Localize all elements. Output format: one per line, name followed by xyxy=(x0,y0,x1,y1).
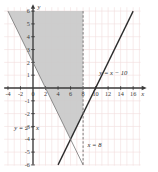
graph-figure: -4-20246810121416654321-1-2-3-4-5-6xyy =… xyxy=(0,0,158,172)
x-axis-tick-label: 16 xyxy=(130,90,136,97)
coordinate-plane-svg: -4-20246810121416654321-1-2-3-4-5-6xyy =… xyxy=(0,0,158,172)
y-axis-tick-label: -6 xyxy=(25,161,30,168)
x-axis-name: x xyxy=(140,90,144,97)
x-axis-tick-label: 0 xyxy=(31,90,34,97)
y-axis-tick-label: 4 xyxy=(27,33,30,40)
y-axis-tick-label: -1 xyxy=(25,97,30,104)
equation-label: x = 8 xyxy=(86,141,102,148)
equation-label: y = x − 10 xyxy=(98,69,128,76)
x-axis-tick-label: 6 xyxy=(69,90,72,97)
y-axis-tick-label: 1 xyxy=(27,71,30,78)
y-axis-tick-label: 2 xyxy=(27,59,30,66)
y-axis-name: y xyxy=(37,3,41,10)
y-axis-tick-label: 6 xyxy=(27,7,30,14)
y-axis-tick-label: 3 xyxy=(27,46,30,53)
x-axis-tick-label: -2 xyxy=(18,90,23,97)
x-axis-tick-label: 14 xyxy=(118,90,124,97)
x-axis-tick-label: 4 xyxy=(56,90,59,97)
y-axis-tick-label: -2 xyxy=(25,110,30,117)
equation-label: y = 2 − x xyxy=(13,124,39,131)
x-axis-tick-label: -4 xyxy=(5,90,10,97)
y-axis-tick-label: -4 xyxy=(25,135,30,142)
y-axis-tick-label: 5 xyxy=(27,20,30,27)
x-axis-tick-label: 2 xyxy=(44,90,47,97)
y-axis-tick-label: -5 xyxy=(25,148,30,155)
x-axis-tick-label: 12 xyxy=(105,90,111,97)
